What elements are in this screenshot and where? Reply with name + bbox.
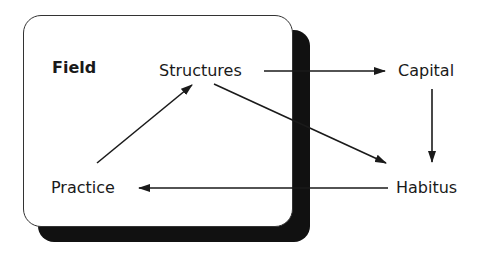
node-structures: Structures	[159, 63, 242, 79]
node-habitus: Habitus	[396, 180, 457, 196]
arrows-layer	[0, 0, 492, 254]
arrow-practice-structures	[97, 85, 192, 163]
node-practice: Practice	[51, 180, 115, 196]
node-capital: Capital	[398, 63, 454, 79]
arrow-structures-habitus	[214, 84, 386, 163]
field-label: Field	[52, 60, 96, 76]
